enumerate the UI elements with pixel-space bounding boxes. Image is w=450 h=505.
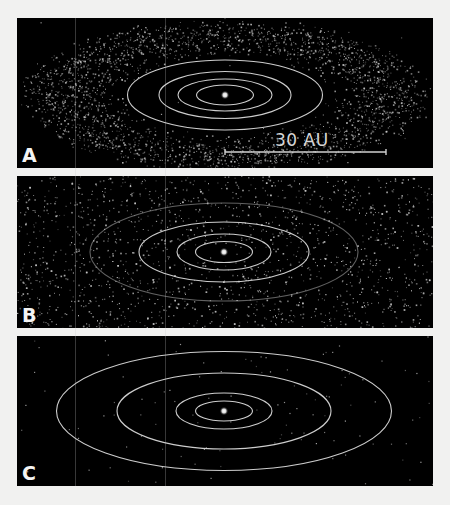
disk-simulation-a — [17, 18, 433, 168]
central-star-icon — [220, 248, 229, 257]
panel-label-b: B — [22, 306, 36, 325]
scale-bar-label: 30 AU — [275, 132, 329, 149]
panel-label-a: A — [22, 146, 37, 165]
central-star-icon — [221, 91, 230, 100]
panel-label-c: C — [22, 464, 36, 483]
disk-simulation-b — [17, 176, 433, 328]
panel-b: B — [17, 176, 433, 328]
panel-a: 30 AU A — [17, 18, 433, 168]
panel-c: C — [17, 336, 433, 486]
central-star-icon — [220, 407, 229, 416]
disk-simulation-c — [17, 336, 433, 486]
figure: 30 AU A B C — [0, 0, 450, 505]
